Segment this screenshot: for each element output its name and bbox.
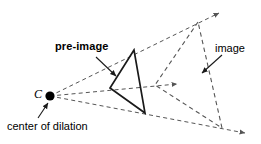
dilation-rays [50,13,245,133]
preimage-triangle [110,50,145,113]
dilation-diagram: pre-image image center of dilation C [0,0,261,144]
image-triangle [155,22,222,128]
preimage-label: pre-image [55,41,108,52]
center-of-dilation-label: center of dilation [7,121,88,132]
center-of-dilation-point [45,91,54,100]
point-c-label: C [34,88,42,100]
preimage-leader-arrow [96,57,116,76]
image-label: image [215,43,245,54]
center-leader-arrow [38,103,48,118]
image-leader-arrow [202,55,222,73]
